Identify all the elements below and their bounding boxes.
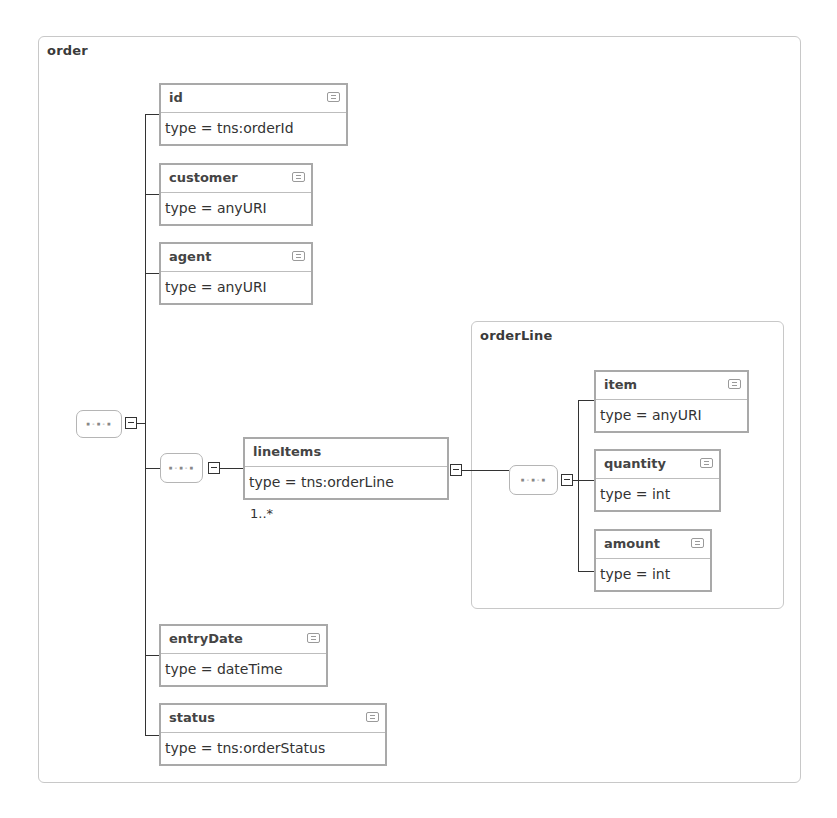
connector-line bbox=[137, 423, 145, 424]
element-lineitems[interactable]: lineItems type = tns:orderLine bbox=[243, 437, 449, 500]
connector-line bbox=[145, 273, 159, 274]
collapse-minus-icon[interactable] bbox=[125, 417, 137, 429]
element-type: type = tns:orderId bbox=[161, 113, 346, 144]
element-name: entryDate bbox=[161, 626, 326, 654]
collapse-minus-icon[interactable] bbox=[208, 462, 220, 474]
element-type: type = int bbox=[596, 559, 710, 590]
sequence-compositor-icon[interactable]: ▪-▪-▪ bbox=[160, 453, 203, 483]
connector-line bbox=[578, 571, 594, 572]
element-item[interactable]: item type = anyURI bbox=[594, 370, 749, 433]
connector-line bbox=[145, 194, 159, 195]
element-type: type = anyURI bbox=[596, 400, 747, 431]
connector-line bbox=[220, 468, 243, 469]
documentation-icon[interactable] bbox=[292, 251, 305, 261]
documentation-icon[interactable] bbox=[728, 379, 741, 389]
element-status[interactable]: status type = tns:orderStatus bbox=[159, 703, 387, 766]
element-name: lineItems bbox=[245, 439, 447, 467]
element-name: agent bbox=[161, 244, 311, 272]
collapse-minus-icon[interactable] bbox=[561, 474, 573, 486]
documentation-icon[interactable] bbox=[327, 92, 340, 102]
documentation-icon[interactable] bbox=[307, 633, 320, 643]
element-name: customer bbox=[161, 165, 311, 193]
documentation-icon[interactable] bbox=[292, 172, 305, 182]
element-name: item bbox=[596, 372, 747, 400]
connector-line bbox=[578, 400, 594, 401]
documentation-icon[interactable] bbox=[700, 458, 713, 468]
connector-line bbox=[462, 470, 509, 471]
element-amount[interactable]: amount type = int bbox=[594, 529, 712, 592]
multiplicity-label: 1..* bbox=[250, 506, 273, 521]
connector-line bbox=[145, 114, 159, 115]
orderline-title: orderLine bbox=[480, 328, 553, 343]
element-type: type = anyURI bbox=[161, 193, 311, 224]
sequence-compositor-icon[interactable]: ▪-▪-▪ bbox=[76, 410, 122, 438]
element-customer[interactable]: customer type = anyURI bbox=[159, 163, 313, 226]
element-type: type = tns:orderStatus bbox=[161, 733, 385, 764]
element-type: type = dateTime bbox=[161, 654, 326, 685]
documentation-icon[interactable] bbox=[366, 712, 379, 722]
element-entrydate[interactable]: entryDate type = dateTime bbox=[159, 624, 328, 687]
connector-line bbox=[578, 400, 579, 571]
connector-line bbox=[145, 655, 159, 656]
element-type: type = tns:orderLine bbox=[245, 467, 447, 498]
element-quantity[interactable]: quantity type = int bbox=[594, 449, 721, 512]
element-type: type = int bbox=[596, 479, 719, 510]
order-title: order bbox=[47, 43, 88, 58]
sequence-compositor-icon[interactable]: ▪-▪-▪ bbox=[509, 465, 558, 495]
documentation-icon[interactable] bbox=[691, 538, 704, 548]
connector-line bbox=[145, 735, 159, 736]
collapse-minus-icon[interactable] bbox=[450, 464, 462, 476]
element-name: id bbox=[161, 85, 346, 113]
connector-line bbox=[145, 468, 160, 469]
element-name: status bbox=[161, 705, 385, 733]
element-agent[interactable]: agent type = anyURI bbox=[159, 242, 313, 305]
element-type: type = anyURI bbox=[161, 272, 311, 303]
connector-line bbox=[573, 480, 594, 481]
element-id[interactable]: id type = tns:orderId bbox=[159, 83, 348, 146]
connector-line bbox=[145, 114, 146, 736]
